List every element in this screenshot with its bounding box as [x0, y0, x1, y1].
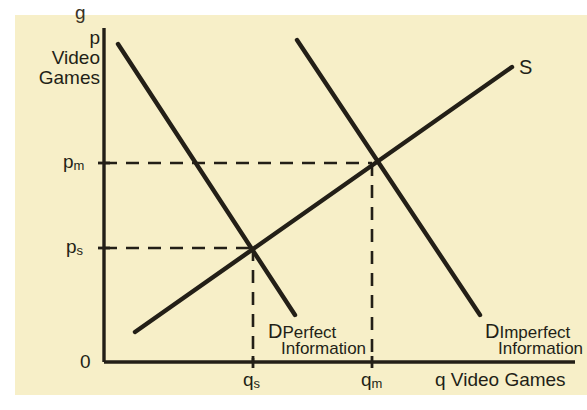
y-axis-title-line2: Video: [22, 48, 100, 68]
supply-curve: [135, 67, 512, 332]
quantity-market-label: qm: [361, 370, 382, 390]
price-social-base: p: [66, 236, 77, 257]
origin-label: 0: [80, 352, 91, 372]
price-market-sub: m: [74, 158, 85, 173]
demand-imperfect-information-label-line2: Information: [485, 340, 583, 358]
demand-imperfect-information-label: DImperfect Information: [485, 321, 583, 358]
quantity-social-sub: s: [254, 376, 261, 391]
y-axis-title-line1: p: [22, 28, 100, 48]
quantity-market-sub: m: [372, 376, 383, 391]
y-axis-title-line3: Games: [22, 68, 100, 88]
price-market-base: p: [63, 151, 74, 172]
demand-imperfect-information-curve: [297, 40, 480, 315]
price-market-label: pm: [63, 152, 84, 172]
demand-perfect-information-curve: [118, 44, 295, 315]
demand-perfect-information-label: DPerfect Information: [268, 321, 366, 358]
quantity-social-label: qs: [243, 370, 260, 390]
y-axis-title: p Video Games: [22, 28, 100, 88]
quantity-social-base: q: [243, 369, 254, 390]
demand-perfect-information-label-line2: Information: [268, 340, 366, 358]
price-social-label: ps: [66, 237, 83, 257]
quantity-market-base: q: [361, 369, 372, 390]
price-social-sub: s: [77, 243, 84, 258]
figure-canvas: g p Video Games pm ps 0: [0, 0, 587, 410]
supply-curve-label: S: [519, 57, 532, 78]
x-axis-title: q Video Games: [435, 370, 566, 390]
